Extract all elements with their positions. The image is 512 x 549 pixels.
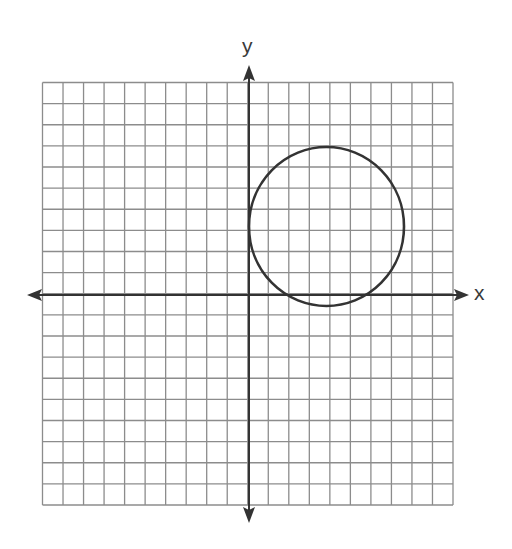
grid-lines <box>43 83 454 506</box>
x-axis-label: x <box>474 281 485 304</box>
axes <box>27 65 469 523</box>
y-axis-label: y <box>242 34 253 57</box>
coordinate-plane: y x <box>0 0 512 549</box>
circle <box>249 147 404 306</box>
